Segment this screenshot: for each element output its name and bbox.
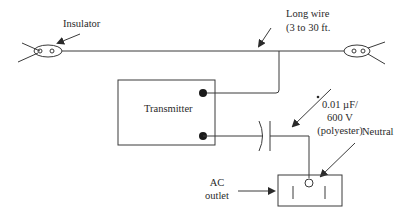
insulator-icon [344, 45, 370, 57]
ac-outlet [278, 175, 342, 206]
terminal-top-icon [199, 89, 207, 97]
neutral-arrow-icon [321, 143, 355, 176]
neutral-label: Neutral [362, 126, 394, 137]
insulator-hole-icon [352, 49, 356, 53]
left-insulator [18, 43, 62, 62]
capacitor-label-line1: 0.01 µF/ [322, 99, 358, 110]
right-insulator [344, 42, 385, 64]
ac-outlet-label-line1: AC [210, 177, 225, 188]
insulator-label: Insulator [63, 18, 101, 29]
circuit-diagram: Insulator Long wire (3 to 30 ft. Transmi… [0, 0, 408, 214]
long-wire-arrow-icon [259, 28, 271, 46]
left-guy-wire-bottom [18, 53, 38, 62]
antenna-lead-wire [203, 51, 279, 93]
long-wire-label-line2: (3 to 30 ft. [286, 22, 330, 34]
capacitor-lead-right [270, 136, 309, 178]
dot-marker-icon [317, 96, 320, 99]
insulator-hole-icon [361, 49, 365, 53]
insulator-arrow-icon [58, 34, 80, 43]
outlet-box [278, 175, 342, 206]
insulator-hole-icon [50, 49, 54, 53]
right-guy-wire-bottom [368, 54, 385, 64]
long-wire-label-line1: Long wire [286, 8, 330, 19]
ground-hole-icon [305, 179, 313, 187]
capacitor-label-line3: (polyester) [317, 125, 363, 137]
capacitor-label-line2: 600 V [327, 112, 353, 123]
ac-outlet-label-line2: outlet [205, 190, 229, 201]
right-guy-wire-top [368, 42, 385, 48]
transmitter-label: Transmitter [144, 103, 193, 114]
